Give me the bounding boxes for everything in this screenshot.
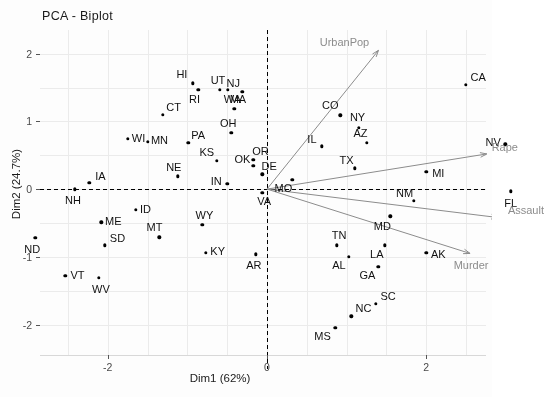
point-label-OK: OK: [234, 153, 250, 165]
vector-label-urbanpop: UrbanPop: [320, 36, 370, 48]
point-label-MS: MS: [314, 330, 331, 342]
x-tick-0: 0: [264, 361, 270, 373]
point-label-SD: SD: [110, 232, 125, 244]
point-label-AZ: AZ: [354, 127, 368, 139]
point-label-MT: MT: [147, 221, 163, 233]
point-label-MO: MO: [275, 182, 293, 194]
point-label-NJ: NJ: [227, 77, 240, 89]
point-label-VT: VT: [70, 269, 84, 281]
point-label-CT: CT: [166, 101, 181, 113]
point-label-ME: ME: [105, 215, 122, 227]
point-label-OH: OH: [220, 117, 237, 129]
point-label-CO: CO: [322, 99, 339, 111]
point-label-SC: SC: [380, 290, 395, 302]
point-label-MI: MI: [432, 167, 444, 179]
point-label-IA: IA: [95, 170, 105, 182]
point-label-AR: AR: [246, 259, 261, 271]
x-axis-label: Dim1 (62%): [0, 372, 492, 384]
point-label-TN: TN: [332, 229, 347, 241]
data-point-FL[interactable]: [509, 189, 512, 192]
point-label-NE: NE: [166, 161, 181, 173]
point-label-KS: KS: [199, 146, 214, 158]
y-tick--2: -2: [14, 319, 32, 331]
point-label-RI: RI: [189, 93, 200, 105]
y-tick-2: 2: [14, 48, 32, 60]
point-label-HI: HI: [176, 68, 187, 80]
point-label-LA: LA: [370, 248, 383, 260]
vector-label-rape: Rape: [492, 141, 518, 153]
x-tick--2: -2: [103, 361, 112, 373]
point-label-NY: NY: [350, 111, 365, 123]
point-label-NC: NC: [355, 302, 371, 314]
point-label-ND: ND: [24, 243, 40, 255]
point-label-TX: TX: [340, 154, 354, 166]
point-label-MD: MD: [374, 220, 391, 232]
point-label-AK: AK: [431, 248, 446, 260]
point-label-PA: PA: [191, 129, 205, 141]
point-label-UT: UT: [211, 74, 226, 86]
point-label-NM: NM: [396, 187, 413, 199]
vector-label-assault: Assault: [508, 204, 544, 216]
point-label-KY: KY: [210, 245, 225, 257]
point-label-WI: WI: [132, 132, 145, 144]
y-tick-1: 1: [14, 115, 32, 127]
point-label-OR: OR: [252, 145, 269, 157]
point-label-WV: WV: [92, 283, 110, 295]
point-label-WA: WA: [224, 93, 241, 105]
point-label-MN: MN: [151, 134, 168, 146]
vector-label-murder: Murder: [454, 259, 489, 271]
x-tick-2: 2: [423, 361, 429, 373]
point-label-AL: AL: [332, 259, 345, 271]
point-label-GA: GA: [360, 269, 376, 281]
point-label-WY: WY: [196, 209, 214, 221]
point-label-NH: NH: [65, 194, 81, 206]
point-label-CA: CA: [470, 71, 485, 83]
chart-title: PCA - Biplot: [42, 9, 113, 23]
x-axis-label-text: Dim1 (62%): [190, 372, 251, 384]
point-label-ID: ID: [140, 203, 151, 215]
point-label-IL: IL: [307, 133, 316, 145]
point-label-IN: IN: [211, 175, 222, 187]
point-label-VA: VA: [257, 195, 271, 207]
point-label-DE: DE: [262, 160, 277, 172]
y-tick-0: 0: [14, 183, 32, 195]
